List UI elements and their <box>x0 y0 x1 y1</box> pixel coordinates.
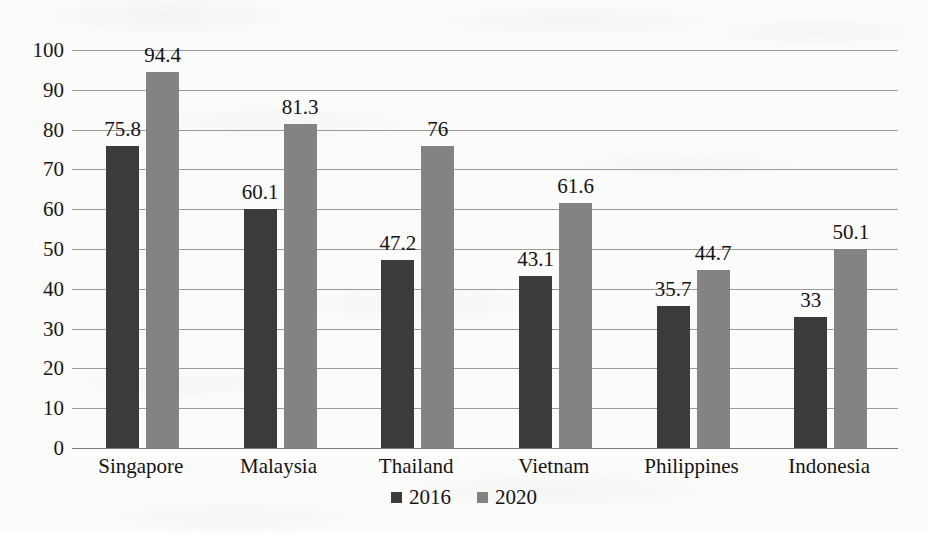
category-label-malaysia: Malaysia <box>210 453 348 479</box>
y-tick-label-0: 0 <box>8 438 64 459</box>
category-label-thailand: Thailand <box>347 453 485 479</box>
legend-swatch-2016 <box>391 492 402 503</box>
y-tick-label-80: 80 <box>8 119 64 140</box>
y-axis: 1009080706050403020100 <box>0 50 64 448</box>
category-label-indonesia: Indonesia <box>760 453 898 479</box>
bar-group: 47.276 <box>347 50 485 448</box>
bar-value-label: 43.1 <box>517 249 554 270</box>
bar-group: 43.161.6 <box>485 50 623 448</box>
bar-group: 75.894.4 <box>72 50 210 448</box>
bar-value-label: 47.2 <box>379 233 416 254</box>
bar-2020-malaysia[interactable] <box>284 124 317 448</box>
bar-2016-philippines[interactable] <box>657 306 690 448</box>
bar-value-label: 44.7 <box>695 243 732 264</box>
bar-2020-vietnam[interactable] <box>559 203 592 448</box>
bar-value-label: 81.3 <box>282 97 319 118</box>
legend-item-2016[interactable]: 2016 <box>391 487 451 508</box>
x-axis-category-labels: SingaporeMalaysiaThailandVietnamPhilippi… <box>72 453 898 483</box>
legend-label-2020: 2020 <box>495 487 537 508</box>
bar-value-label: 76 <box>427 119 448 140</box>
bar-value-label: 50.1 <box>832 222 869 243</box>
category-label-singapore: Singapore <box>72 453 210 479</box>
gridline-0 <box>72 448 898 449</box>
bar-2020-singapore[interactable] <box>146 72 179 448</box>
y-tick-label-60: 60 <box>8 199 64 220</box>
y-tick-label-50: 50 <box>8 239 64 260</box>
bar-2020-philippines[interactable] <box>697 270 730 448</box>
bar-group: 60.181.3 <box>210 50 348 448</box>
bar-value-label: 35.7 <box>655 279 692 300</box>
bar-group: 35.744.7 <box>623 50 761 448</box>
grouped-bar-chart: 1009080706050403020100 75.894.460.181.34… <box>0 0 928 533</box>
bar-2020-thailand[interactable] <box>421 146 454 448</box>
bar-2016-singapore[interactable] <box>106 146 139 448</box>
bar-value-label: 60.1 <box>242 182 279 203</box>
bar-value-label: 94.4 <box>144 45 181 66</box>
chart-legend: 20162020 <box>0 487 928 508</box>
bar-2016-indonesia[interactable] <box>794 317 827 448</box>
plot-area: 75.894.460.181.347.27643.161.635.744.733… <box>72 50 898 448</box>
y-tick-label-10: 10 <box>8 398 64 419</box>
bar-value-label: 61.6 <box>557 176 594 197</box>
y-tick-label-40: 40 <box>8 278 64 299</box>
y-tick-label-70: 70 <box>8 159 64 180</box>
y-tick-label-20: 20 <box>8 358 64 379</box>
legend-item-2020[interactable]: 2020 <box>477 487 537 508</box>
bar-groups: 75.894.460.181.347.27643.161.635.744.733… <box>72 50 898 448</box>
bar-2016-malaysia[interactable] <box>244 209 277 448</box>
bar-value-label: 33 <box>800 290 821 311</box>
bar-2020-indonesia[interactable] <box>834 249 867 448</box>
category-label-vietnam: Vietnam <box>485 453 623 479</box>
bar-2016-thailand[interactable] <box>381 260 414 448</box>
legend-label-2016: 2016 <box>409 487 451 508</box>
y-tick-label-100: 100 <box>8 40 64 61</box>
bar-value-label: 75.8 <box>104 119 141 140</box>
bar-group: 3350.1 <box>760 50 898 448</box>
category-label-philippines: Philippines <box>623 453 761 479</box>
bar-2016-vietnam[interactable] <box>519 276 552 448</box>
y-tick-label-30: 30 <box>8 318 64 339</box>
legend-swatch-2020 <box>477 492 488 503</box>
y-tick-label-90: 90 <box>8 79 64 100</box>
